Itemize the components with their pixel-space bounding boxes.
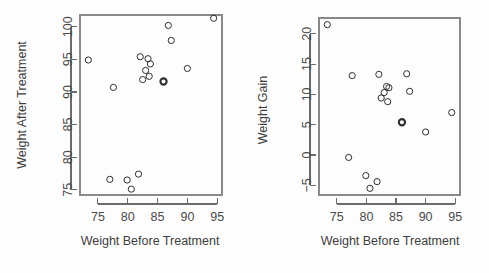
x-axis-title: Weight Before Treatment <box>81 234 220 248</box>
data-point <box>135 171 141 177</box>
data-point <box>449 109 455 115</box>
y-axis-tick-label: 75 <box>61 183 75 197</box>
data-point <box>147 61 153 67</box>
y-axis-tick-label: 90 <box>61 85 75 99</box>
data-point <box>399 119 405 125</box>
data-point <box>140 76 146 82</box>
y-axis-tick-label: 20 <box>300 27 314 41</box>
scatter-plot-weight-gain-svg: −5051015207580859095Weight GainWeight Be… <box>245 0 489 273</box>
data-point <box>376 71 382 77</box>
y-axis-tick-label: 15 <box>300 57 314 71</box>
data-point <box>143 67 149 73</box>
scatter-panel-weight-after: 75808590951007580859095Weight After Trea… <box>0 0 245 273</box>
data-point <box>423 129 429 135</box>
data-point <box>137 54 143 60</box>
y-axis-tick-label: 95 <box>61 52 75 66</box>
plot-frame <box>319 18 460 195</box>
y-axis-tick-label: 80 <box>61 150 75 164</box>
x-axis-tick-label: 95 <box>448 210 462 224</box>
data-point <box>85 57 91 63</box>
data-point <box>346 154 352 160</box>
x-axis-tick-label: 85 <box>389 210 403 224</box>
data-point <box>211 15 217 21</box>
y-axis-tick-label: 5 <box>300 121 314 128</box>
data-point <box>110 84 116 90</box>
data-point <box>146 73 152 79</box>
data-point <box>128 186 134 192</box>
x-axis-tick-label: 75 <box>91 210 105 224</box>
y-axis-tick-label: 0 <box>300 151 314 158</box>
y-axis-title: Weight After Treatment <box>15 41 29 169</box>
data-point <box>349 72 355 78</box>
x-axis-tick-label: 80 <box>121 210 135 224</box>
x-axis-title: Weight Before Treatment <box>321 234 460 248</box>
data-point <box>107 176 113 182</box>
data-point <box>160 78 166 84</box>
data-point <box>184 65 190 71</box>
data-point <box>374 179 380 185</box>
plot-frame <box>80 15 222 195</box>
x-axis-tick-label: 80 <box>359 210 373 224</box>
y-axis-tick-label: −5 <box>300 178 314 192</box>
data-point <box>385 99 391 105</box>
figure-container: 75808590951007580859095Weight After Trea… <box>0 0 489 273</box>
data-point <box>324 22 330 28</box>
data-point <box>381 89 387 95</box>
x-axis-tick-label: 90 <box>180 210 194 224</box>
scatter-plot-weight-after-svg: 75808590951007580859095Weight After Trea… <box>0 0 245 273</box>
data-point <box>404 71 410 77</box>
data-point <box>165 22 171 28</box>
data-point <box>168 37 174 43</box>
y-axis-tick-label: 100 <box>61 16 75 37</box>
data-point-group <box>324 22 455 192</box>
x-axis-tick-label: 95 <box>210 210 224 224</box>
y-axis-tick-label: 85 <box>61 118 75 132</box>
y-axis-tick-label: 10 <box>300 87 314 101</box>
x-axis-tick-label: 75 <box>330 210 344 224</box>
data-point <box>124 177 130 183</box>
y-axis-title: Weight Gain <box>256 76 270 145</box>
x-axis-tick-label: 85 <box>151 210 165 224</box>
scatter-panel-weight-gain: −5051015207580859095Weight GainWeight Be… <box>245 0 489 273</box>
data-point <box>367 185 373 191</box>
data-point-group <box>85 15 216 192</box>
data-point <box>363 173 369 179</box>
data-point <box>407 88 413 94</box>
x-axis-tick-label: 90 <box>419 210 433 224</box>
